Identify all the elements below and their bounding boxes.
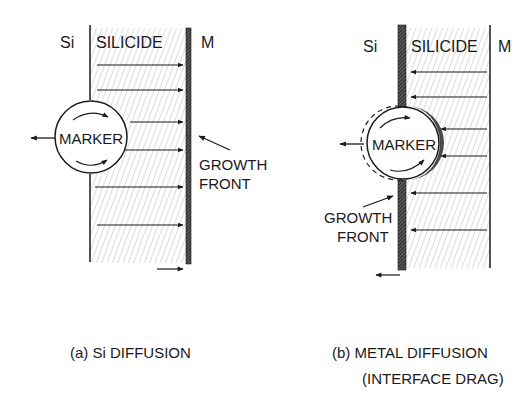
- growth-front-label-line1: GROWTH: [199, 156, 267, 173]
- growth-front-band: [398, 180, 406, 270]
- marker-label: MARKER: [59, 130, 123, 147]
- diagram-canvas: MARKER Si SILICIDE M GROWTH FRONT (a) Si…: [0, 0, 531, 397]
- growth-front-band: [186, 28, 191, 264]
- growth-front-band: [398, 25, 406, 107]
- silicide-label: SILICIDE: [411, 38, 478, 55]
- metal-label: M: [201, 34, 214, 51]
- caption-a: (a) Si DIFFUSION: [70, 344, 191, 361]
- si-label: Si: [60, 34, 74, 51]
- metal-label: M: [498, 38, 511, 55]
- growth-front-label-line1: GROWTH: [324, 209, 392, 226]
- caption-b-line1: (b) METAL DIFFUSION: [332, 344, 488, 361]
- caption-b-line2: (INTERFACE DRAG): [362, 370, 504, 387]
- marker-label: MARKER: [372, 136, 436, 153]
- growth-front-pointer-icon: [363, 196, 393, 207]
- panel-b-metal-diffusion: MARKER Si SILICIDE M GROWTH FRONT (b) ME…: [324, 25, 511, 387]
- growth-front-label-line2: FRONT: [199, 175, 251, 192]
- si-label: Si: [363, 38, 377, 55]
- growth-front-pointer-icon: [199, 136, 230, 150]
- panel-a-si-diffusion: MARKER Si SILICIDE M GROWTH FRONT (a) Si…: [31, 25, 267, 361]
- growth-front-label-line2: FRONT: [337, 228, 389, 245]
- silicide-label: SILICIDE: [96, 34, 163, 51]
